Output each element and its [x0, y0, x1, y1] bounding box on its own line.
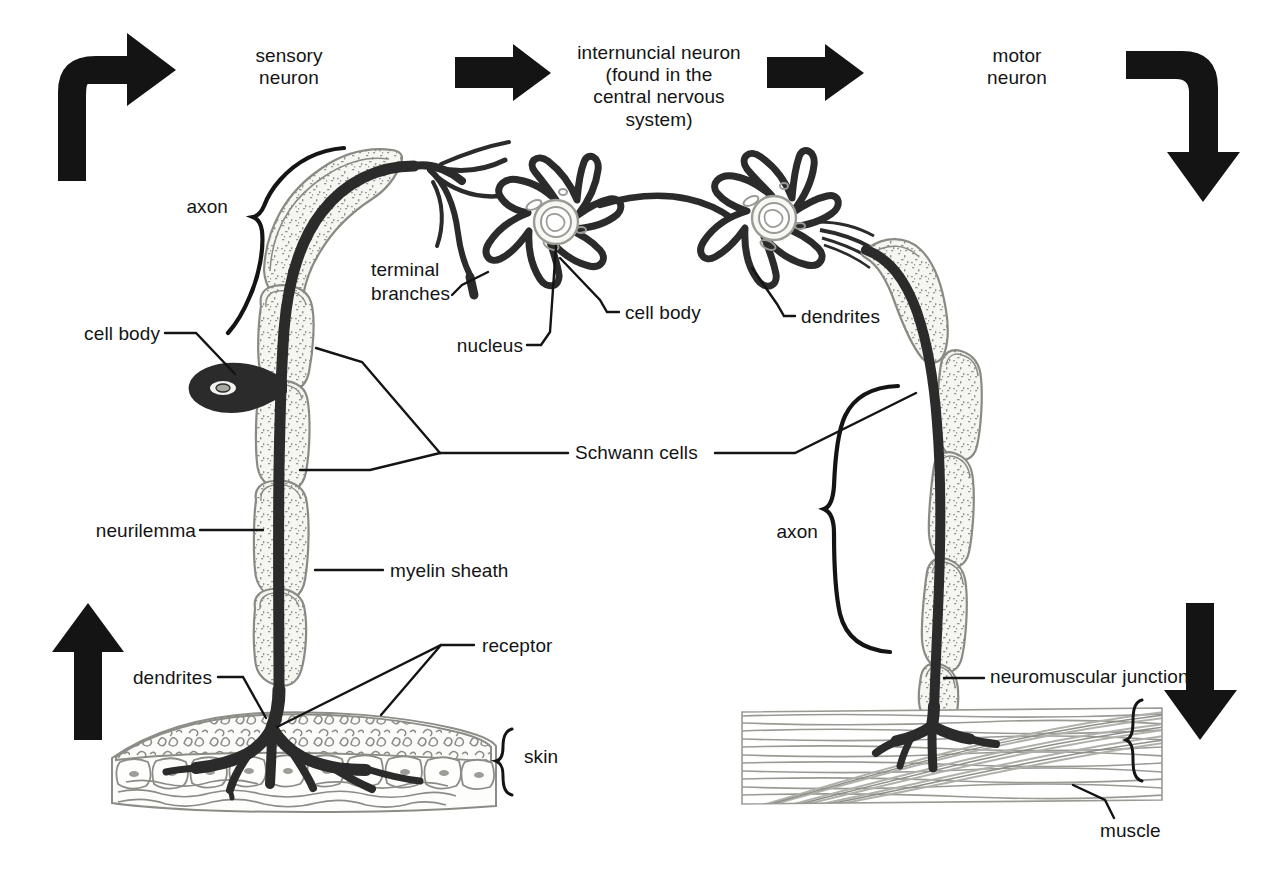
label-dendrites-sensory: dendrites — [133, 667, 212, 689]
label-sensory-neuron: sensory neuron — [255, 45, 322, 89]
leader-receptor-b — [381, 645, 441, 715]
motor-neuron-synapse-brush — [818, 222, 874, 268]
arrow-up-right-top-left — [58, 33, 176, 181]
arrow-right-then-down-top-right — [1126, 51, 1240, 202]
leader-schwann-left-upper — [316, 348, 440, 453]
label-neurilemma: neurilemma — [96, 520, 196, 542]
label-cell-body-sensory: cell body — [84, 323, 160, 345]
skin-brace — [496, 729, 512, 795]
label-terminal-branches: terminal branches — [371, 258, 450, 306]
leader-dendrites-sensory — [218, 677, 266, 718]
label-internuncial-neuron: internuncial neuron (found in the centra… — [577, 42, 741, 131]
leader-schwann-right — [715, 393, 916, 453]
label-axon-left: axon — [186, 196, 228, 218]
label-myelin-sheath: myelin sheath — [390, 560, 509, 582]
label-cell-body-internuncial: cell body — [625, 302, 701, 324]
label-axon-right: axon — [776, 521, 818, 543]
label-schwann-cells: Schwann cells — [575, 442, 698, 464]
arrow-right-out-of-internuncial — [767, 44, 864, 101]
internuncial-nucleus-2 — [752, 196, 796, 240]
leader-schwann-left-lower — [300, 453, 440, 470]
muscle-tissue — [740, 706, 1166, 808]
label-dendrites-internuncial: dendrites — [801, 306, 880, 328]
label-muscle: muscle — [1100, 820, 1161, 842]
arrow-right-into-internuncial — [455, 44, 551, 101]
label-neuromuscular-junction: neuromuscular junction — [990, 666, 1189, 688]
axon-brace-right — [824, 386, 898, 652]
arrow-up-bottom-left — [52, 603, 124, 740]
label-motor-neuron: motor neuron — [987, 45, 1047, 89]
label-receptor: receptor — [482, 635, 553, 657]
internuncial-nucleus-1 — [534, 200, 578, 244]
diagram-canvas: sensory neuron internuncial neuron (foun… — [0, 0, 1274, 888]
label-skin: skin — [524, 746, 558, 768]
label-nucleus: nucleus — [457, 335, 523, 357]
internuncial-neuron-2 — [701, 151, 838, 287]
